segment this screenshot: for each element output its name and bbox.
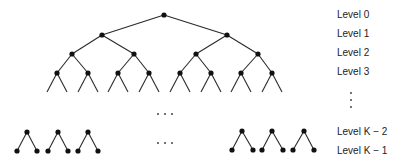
tree-edge — [304, 131, 314, 150]
tree-node — [55, 129, 60, 134]
tree-edge — [272, 73, 282, 92]
tree-node — [208, 70, 213, 75]
tree-nodes — [14, 12, 316, 153]
tree-node — [259, 147, 264, 152]
tree-node — [131, 51, 136, 56]
tree-edge — [27, 132, 37, 151]
tree-node — [34, 148, 39, 153]
tree-edge — [231, 73, 241, 92]
level-k-1-label: Level K − 1 — [337, 146, 387, 156]
tree-node — [250, 147, 255, 152]
tree-node — [54, 70, 59, 75]
tree-node — [229, 147, 234, 152]
tree-edge — [139, 73, 149, 92]
tree-edge — [232, 131, 242, 150]
tree-node — [146, 70, 151, 75]
tree-edge — [108, 73, 118, 92]
tree-node — [95, 148, 100, 153]
level-1-label: Level 1 — [337, 29, 369, 39]
tree-node — [238, 70, 243, 75]
tree-diagram — [0, 0, 395, 165]
tree-edge — [134, 54, 149, 73]
tree-edge — [17, 132, 27, 151]
tree-node — [239, 128, 244, 133]
tree-edge — [47, 73, 57, 92]
tree-edge — [196, 35, 227, 54]
horizontal-ellipsis-lower — [157, 142, 173, 144]
tree-edge — [180, 73, 190, 92]
tree-edge — [57, 54, 72, 73]
tree-node — [85, 70, 90, 75]
tree-edge — [118, 73, 128, 92]
tree-edge — [227, 35, 258, 54]
tree-node — [269, 70, 274, 75]
tree-edge — [164, 15, 227, 35]
tree-edge — [262, 73, 272, 92]
tree-node — [115, 70, 120, 75]
tree-edge — [72, 35, 102, 54]
tree-node — [14, 148, 19, 153]
tree-node — [255, 51, 260, 56]
tree-edge — [201, 73, 211, 92]
tree-node — [65, 148, 70, 153]
tree-edge — [272, 131, 283, 150]
tree-node — [301, 128, 306, 133]
tree-edge — [170, 73, 180, 92]
tree-node — [290, 147, 295, 152]
tree-node — [99, 32, 104, 37]
tree-edge — [102, 35, 134, 54]
tree-node — [280, 147, 285, 152]
level-k-2-label: Level K − 2 — [337, 127, 387, 137]
tree-node — [311, 147, 316, 152]
tree-node — [224, 32, 229, 37]
tree-node — [69, 51, 74, 56]
tree-edge — [78, 132, 88, 151]
tree-edge — [149, 73, 159, 92]
tree-node — [75, 148, 80, 153]
tree-edge — [293, 131, 304, 150]
tree-edge — [48, 132, 58, 151]
horizontal-ellipsis-upper — [157, 113, 173, 115]
tree-node — [269, 128, 274, 133]
vertical-ellipsis — [350, 92, 352, 108]
tree-edge — [180, 54, 196, 73]
tree-edge — [72, 54, 88, 73]
tree-node — [85, 129, 90, 134]
tree-node — [161, 12, 166, 17]
tree-edge — [242, 131, 253, 150]
tree-edge — [211, 73, 221, 92]
tree-edge — [78, 73, 88, 92]
tree-node — [177, 70, 182, 75]
level-2-label: Level 2 — [337, 48, 369, 58]
tree-edge — [241, 73, 251, 92]
tree-edge — [262, 131, 272, 150]
tree-node — [45, 148, 50, 153]
tree-edge — [57, 73, 67, 92]
level-0-label: Level 0 — [337, 10, 369, 20]
tree-edge — [102, 15, 164, 35]
tree-node — [24, 129, 29, 134]
tree-edge — [241, 54, 258, 73]
tree-edge — [58, 132, 68, 151]
tree-node — [193, 51, 198, 56]
level-3-label: Level 3 — [337, 67, 369, 77]
tree-edge — [88, 132, 98, 151]
tree-edge — [196, 54, 211, 73]
tree-edge — [88, 73, 98, 92]
tree-edge — [258, 54, 272, 73]
tree-edge — [118, 54, 134, 73]
